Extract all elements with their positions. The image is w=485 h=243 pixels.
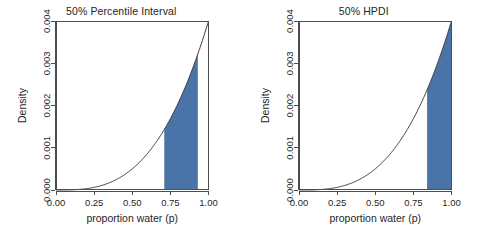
svg-text:proportion water (p): proportion water (p) [329, 212, 421, 224]
svg-text:1.00: 1.00 [199, 197, 218, 208]
svg-text:1.00: 1.00 [442, 197, 461, 208]
svg-text:0.001: 0.001 [284, 136, 295, 160]
svg-text:0.003: 0.003 [284, 51, 295, 75]
svg-text:0.50: 0.50 [123, 197, 142, 208]
svg-text:0.004: 0.004 [41, 9, 52, 33]
svg-text:0.001: 0.001 [41, 136, 52, 160]
panel-hpdi: 50% HPDI 0.000.250.500.751.00proportion … [243, 0, 485, 243]
svg-text:0.002: 0.002 [41, 94, 52, 118]
svg-text:0.25: 0.25 [85, 197, 104, 208]
plot-area-left: 0.000.250.500.751.00proportion water (p)… [0, 0, 243, 243]
svg-text:Density: Density [258, 87, 270, 123]
svg-text:0.50: 0.50 [366, 197, 385, 208]
svg-text:0.75: 0.75 [161, 197, 180, 208]
plot-area-right: 0.000.250.500.751.00proportion water (p)… [243, 0, 485, 243]
svg-text:proportion water (p): proportion water (p) [86, 212, 178, 224]
panel-percentile-interval: 50% Percentile Interval 0.000.250.500.75… [0, 0, 243, 243]
svg-text:0.000: 0.000 [284, 178, 295, 202]
svg-text:0.002: 0.002 [284, 94, 295, 118]
svg-text:0.003: 0.003 [41, 51, 52, 75]
svg-text:0.75: 0.75 [404, 197, 423, 208]
svg-text:0.25: 0.25 [327, 197, 346, 208]
figure-container: 50% Percentile Interval 0.000.250.500.75… [0, 0, 485, 243]
svg-text:0.004: 0.004 [284, 9, 295, 33]
svg-text:0.000: 0.000 [41, 178, 52, 202]
svg-text:Density: Density [16, 87, 28, 123]
